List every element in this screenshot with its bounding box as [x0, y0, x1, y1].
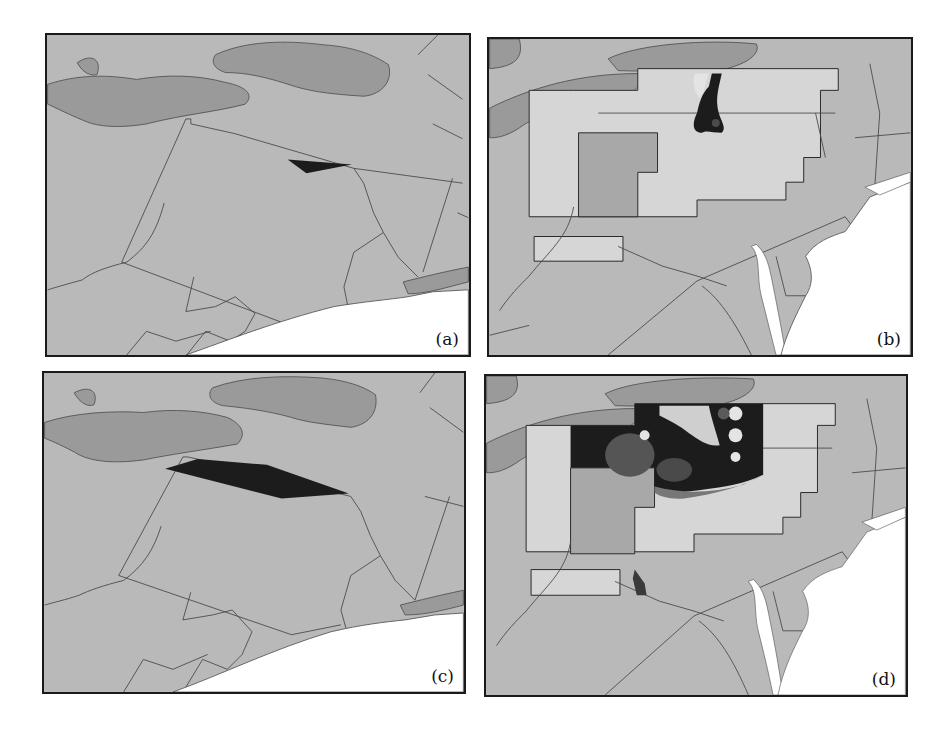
concentration-ring — [711, 118, 721, 128]
concentration-mid-patch-2 — [656, 458, 692, 482]
map-panel-b: (b) — [487, 37, 913, 357]
panel-label-c: (c) — [431, 666, 454, 686]
concentration-hotspot-2 — [729, 428, 743, 442]
map-a-svg — [47, 35, 469, 355]
concentration-hotspot-3 — [731, 452, 741, 462]
concentration-hotspot-5 — [718, 408, 730, 420]
map-d-svg — [486, 376, 906, 695]
map-b-svg — [489, 39, 911, 355]
concentration-hotspot-4 — [640, 430, 650, 440]
map-panel-c: (c) — [42, 371, 466, 694]
map-c-svg — [44, 373, 464, 692]
panel-label-b: (b) — [877, 329, 901, 349]
panel-label-a: (a) — [436, 329, 459, 349]
concentration-hotspot-1 — [729, 407, 743, 421]
map-panel-a: (a) — [45, 33, 471, 357]
map-panel-d: (d) — [484, 374, 908, 697]
panel-label-d: (d) — [872, 669, 896, 689]
concentration-mid-patch-1 — [605, 433, 654, 476]
